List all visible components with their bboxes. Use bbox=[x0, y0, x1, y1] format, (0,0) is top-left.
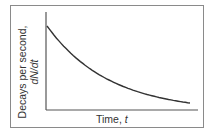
decay-curve bbox=[47, 26, 190, 103]
y-axis-label-line2: dN/dt bbox=[28, 59, 40, 84]
x-axis-label-text: Time, bbox=[96, 113, 125, 125]
x-axis-label: Time, t bbox=[96, 113, 128, 125]
x-axis-label-var: t bbox=[125, 113, 128, 125]
y-axis-label: Decays per second, dN/dt bbox=[16, 22, 40, 122]
y-axis-label-line1: Decays per second, bbox=[16, 22, 28, 122]
